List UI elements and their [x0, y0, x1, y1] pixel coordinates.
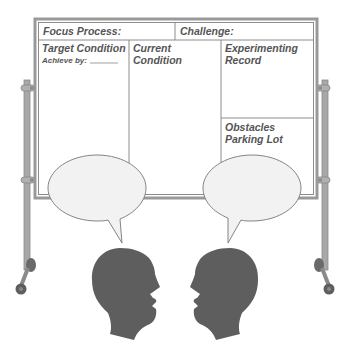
left-speech-bubble	[48, 155, 146, 243]
right-head-silhouette	[190, 248, 258, 340]
left-stand	[16, 80, 37, 295]
obstacles-parking-lot-line1: Obstacles	[225, 121, 275, 133]
experimenting-record-line2: Record	[225, 54, 261, 66]
target-condition-title: Target Condition	[42, 42, 126, 54]
coaching-board-diagram: Focus Process: Challenge: Target Conditi…	[0, 0, 350, 356]
current-condition-line2: Condition	[133, 54, 182, 66]
experimenting-record-line1: Experimenting	[225, 42, 298, 54]
left-head-silhouette	[92, 248, 160, 340]
obstacles-parking-lot-line2: Parking Lot	[225, 133, 283, 145]
challenge-label: Challenge:	[180, 25, 234, 37]
focus-process-label: Focus Process:	[43, 25, 121, 37]
right-speech-bubble	[203, 155, 301, 243]
current-condition-line1: Current	[133, 42, 171, 54]
achieve-by-label: Achieve by:	[42, 55, 87, 67]
